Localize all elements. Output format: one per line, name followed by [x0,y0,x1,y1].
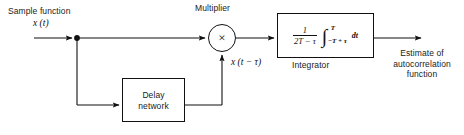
fraction-numerator: 1 [301,26,309,35]
output-caption: Estimate of autocorrelation function [384,48,460,80]
integral-upper-limit: T [331,25,335,32]
delay-network-caption-line1: Delay [122,90,185,101]
integral-group: ∫ T −T + τ dt [322,25,358,46]
integral-sign-icon: ∫ [322,28,327,44]
delayed-signal-label: x (t − τ) [231,57,261,67]
output-caption-line3: function [384,69,460,80]
integral-differential: dt [352,31,358,40]
integrator-caption: Integrator [292,60,329,71]
input-signal-label: x (t) [33,18,49,28]
multiplier-caption: Multiplier [195,3,230,14]
multiply-icon: × [209,25,235,51]
output-caption-line1: Estimate of [384,48,460,59]
block-diagram: Sample function x (t) Multiplier × x (t … [0,0,464,135]
integral-limits: T −T + τ [328,25,347,46]
delay-network-caption: Delay network [122,90,185,111]
integrator-expression: 1 2T − τ ∫ T −T + τ dt [277,13,374,58]
integrator-fraction: 1 2T − τ [293,26,317,46]
integral-lower-limit: −T + τ [328,38,347,45]
output-caption-line2: autocorrelation [384,59,460,70]
delay-network-caption-line2: network [122,101,185,112]
sample-function-caption: Sample function [8,6,70,17]
multiplier-block: × [208,24,236,52]
fraction-denominator: 2T − τ [293,36,317,45]
